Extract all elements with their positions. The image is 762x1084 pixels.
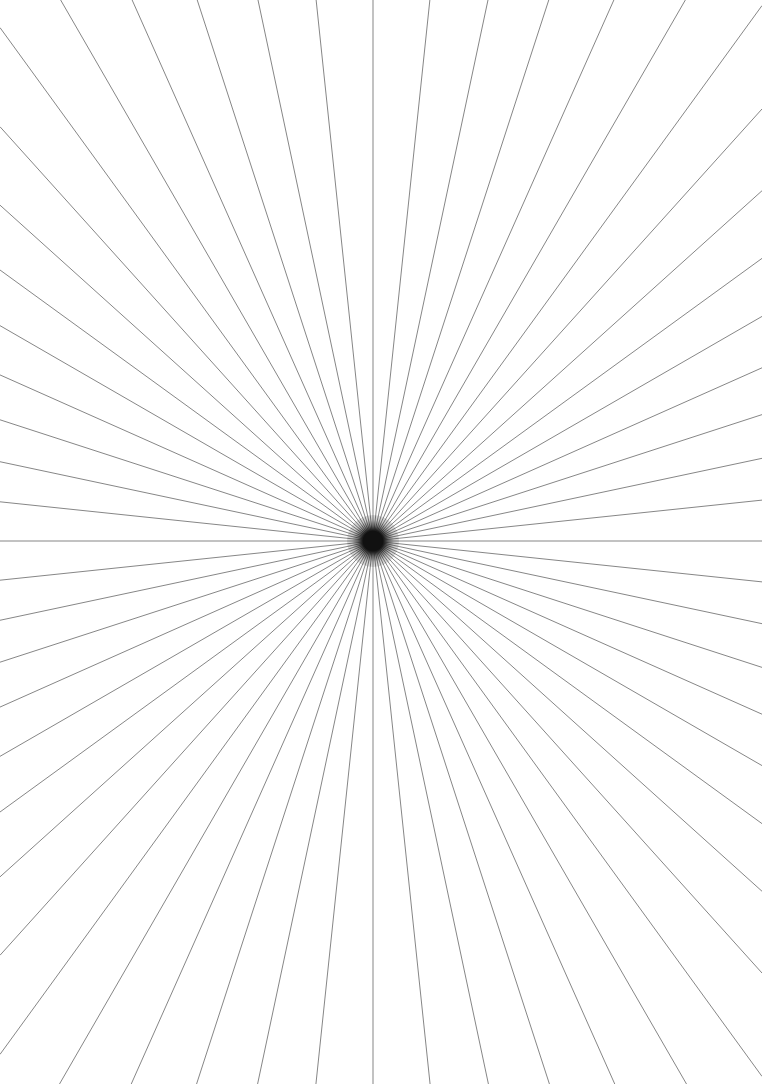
ray-lines-svg [0, 0, 762, 1084]
radial-burst-canvas [0, 0, 762, 1084]
